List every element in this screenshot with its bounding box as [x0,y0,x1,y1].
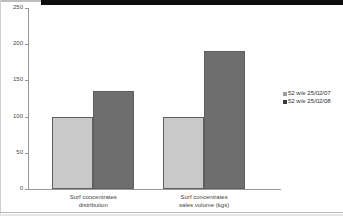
x-axis-category-label-line: sales volume (kgs) [144,201,264,209]
y-axis-tick [25,189,29,190]
y-axis-tick-label: 150 [0,76,23,83]
bar [204,51,245,189]
y-axis-tick-label: 100 [0,113,23,120]
x-axis-line [28,189,281,190]
bar [163,117,204,189]
page-bottom-rule-secondary [0,214,343,216]
chart-legend: 52 w/e 25/02/0752 w/e 25/02/08 [283,90,341,106]
x-axis-category-label-line: Surf concentrates [144,193,264,201]
legend-item-label: 52 w/e 25/02/08 [288,98,331,105]
y-axis-tick-label: 250 [0,4,23,11]
x-axis-category-label: Surf concentratessales volume (kgs) [144,193,264,209]
legend-item-label: 52 w/e 25/02/07 [288,90,331,97]
x-axis-category-label: Surf concentratesdistribution [33,193,153,209]
bar-chart: 050100150200250 Surf concentratesdistrib… [0,0,343,216]
legend-swatch-icon [283,92,287,96]
bar [93,91,134,189]
legend-item[interactable]: 52 w/e 25/02/07 [283,90,341,97]
legend-item[interactable]: 52 w/e 25/02/08 [283,98,341,105]
bar [52,117,93,189]
page-bottom-rule [0,212,343,213]
y-axis-tick-label: 0 [0,185,23,192]
legend-swatch-icon [283,100,287,104]
x-axis-category-label-line: distribution [33,201,153,209]
x-axis-category-label-line: Surf concentrates [33,193,153,201]
y-axis-tick-label: 50 [0,149,23,156]
bars-layer [29,8,281,189]
y-axis-tick-label: 200 [0,40,23,47]
